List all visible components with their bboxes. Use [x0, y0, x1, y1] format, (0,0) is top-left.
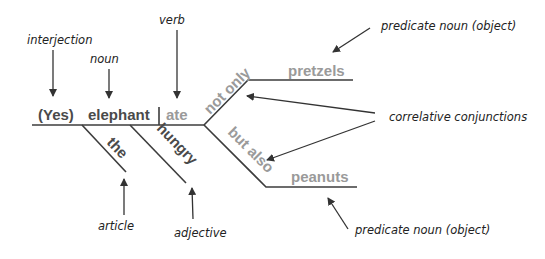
arrow-predicate-upper-icon [333, 28, 370, 52]
label-interjection: interjection [27, 33, 92, 47]
word-hungry: hungry [154, 119, 202, 168]
word-the: the [104, 133, 132, 161]
word-not-only: not only [200, 63, 254, 117]
label-noun: noun [90, 52, 119, 66]
word-elephant: elephant [88, 106, 150, 123]
label-adjective: adjective [174, 226, 227, 240]
arrow-correlative-lower-icon [267, 121, 375, 160]
label-verb: verb [159, 13, 185, 27]
arrow-predicate-lower-icon [328, 198, 348, 229]
word-but-also: but also [225, 123, 278, 176]
arrow-adjective-icon [192, 188, 193, 219]
label-correlative: correlative conjunctions [389, 110, 527, 124]
word-peanuts: peanuts [291, 168, 349, 185]
word-ate: ate [166, 106, 188, 123]
label-article: article [98, 219, 134, 233]
label-predicate-upper: predicate noun (object) [380, 19, 516, 33]
word-pretzels: pretzels [288, 62, 345, 79]
sentence-diagram: (Yes) elephant ate the hungry not only b… [0, 0, 545, 259]
arrow-correlative-upper-icon [247, 96, 375, 113]
label-predicate-lower: predicate noun (object) [354, 223, 490, 237]
word-yes: (Yes) [38, 106, 74, 123]
